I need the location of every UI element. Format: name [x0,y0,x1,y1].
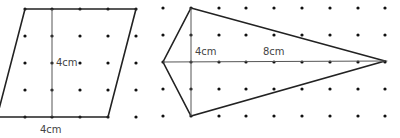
grid-dot [272,6,275,9]
grid-dot [383,6,386,9]
grid-dot [244,6,247,9]
grid-dot [244,33,247,36]
grid-dot [272,33,275,36]
grid-dot [161,87,164,90]
parallelogram-dot-grid [23,7,137,118]
grid-dot [244,87,247,90]
grid-dot [78,61,81,64]
grid-dot [383,33,386,36]
grid-dot [356,114,359,117]
grid-dot [217,33,220,36]
grid-dot [217,87,220,90]
grid-dot [134,88,137,91]
grid-dot [134,115,137,118]
grid-dot [161,114,164,117]
grid-dot [134,61,137,64]
grid-dot [106,88,109,91]
grid-dot [300,114,303,117]
grid-dot [106,34,109,37]
grid-dot [78,88,81,91]
grid-dot [328,33,331,36]
grid-dot [328,87,331,90]
grid-dot [161,33,164,36]
grid-dot [23,34,26,37]
dot-grid-diagram: 4cm 4cm 4cm 8cm [0,0,400,138]
kite-horizontal-diagonal [163,61,385,62]
grid-dot [161,6,164,9]
grid-dot [300,33,303,36]
grid-dot [23,88,26,91]
grid-dot [272,87,275,90]
grid-dot [300,6,303,9]
parallelogram-base-label: 4cm [40,124,62,135]
parallelogram-height-label: 4cm [56,57,78,68]
grid-dot [106,61,109,64]
grid-dot [383,87,386,90]
grid-dot [217,6,220,9]
kite-long-label: 8cm [263,46,285,57]
grid-dot [356,87,359,90]
grid-dot [383,114,386,117]
grid-dot [217,114,220,117]
grid-dot [23,61,26,64]
grid-dot [78,34,81,37]
grid-dot [244,114,247,117]
grid-dot [356,33,359,36]
grid-dot [356,6,359,9]
grid-dot [134,34,137,37]
kite-short-label: 4cm [195,46,217,57]
grid-dot [272,114,275,117]
grid-dot [328,6,331,9]
grid-dot [328,114,331,117]
grid-dot [300,87,303,90]
